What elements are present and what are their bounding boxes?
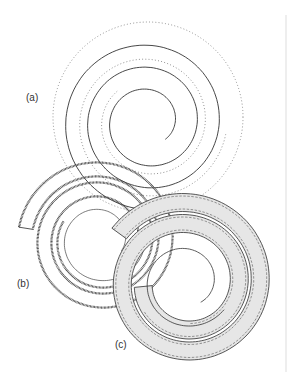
panel-c-label: (c) [115,339,127,350]
panel-a-label: (a) [26,92,38,103]
panel-a-dotted-spiral [80,59,226,196]
panel-a: (a) [26,22,243,212]
panel-c: (c) [112,194,269,361]
spiral-figure: (a) (b) (c) [0,0,292,386]
panel-a-spiral [66,45,220,210]
panel-b-end-cap [19,227,33,229]
panel-b-label: (b) [17,278,29,289]
